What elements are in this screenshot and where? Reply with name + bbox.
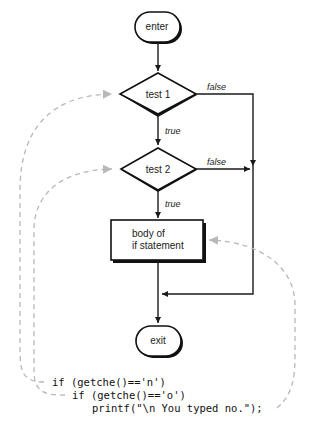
body-label-line2: if statement <box>132 240 184 251</box>
exit-node: exit <box>136 326 183 358</box>
test1-true-label: true <box>165 126 181 136</box>
flowchart: enter test 1 false true test 2 false tru… <box>0 0 310 430</box>
code-block: if (getche()=='n') if (getche()=='o') pr… <box>52 376 263 414</box>
dashed-arrow-code-line2-to-test2 <box>34 169 112 395</box>
code-line-3: printf("\n You typed no."); <box>92 402 263 414</box>
code-line-1: if (getche()=='n') <box>52 376 166 388</box>
test1-node: test 1 <box>120 73 197 117</box>
exit-label: exit <box>150 335 166 346</box>
edge-test1-false <box>196 94 253 166</box>
enter-node: enter <box>135 12 182 44</box>
test2-label: test 2 <box>146 164 171 175</box>
body-node: body of if statement <box>111 220 206 263</box>
test1-label: test 1 <box>146 89 171 100</box>
test2-node: test 2 <box>121 148 197 192</box>
dashed-arrow-code-line3-to-body <box>209 240 295 408</box>
dashed-arrow-code-line1-to-test1 <box>20 94 112 382</box>
enter-label: enter <box>146 21 169 32</box>
body-label-line1: body of <box>132 228 165 239</box>
test2-false-label: false <box>207 157 226 167</box>
code-line-2: if (getche()=='o') <box>72 389 186 401</box>
test2-true-label: true <box>165 199 181 209</box>
test1-false-label: false <box>207 82 226 92</box>
